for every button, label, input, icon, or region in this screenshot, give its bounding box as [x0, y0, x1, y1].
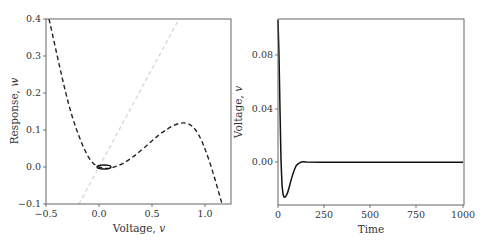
right-ytick-label: 0.08: [252, 49, 273, 60]
left-ytick-label: 0.0: [26, 161, 41, 172]
left-xtick-label: 1.0: [197, 208, 212, 219]
figure: 0.4 0.3 0.2 0.1 0.0 −0.1 −0.5 0.0 0.5 1.…: [0, 0, 485, 245]
right-ytick-label: 0.04: [252, 103, 273, 114]
right-y-axis-label: Voltage, v: [232, 86, 244, 139]
voltage-trace: [278, 20, 463, 197]
left-ytick-label: 0.2: [26, 87, 41, 98]
right-xtick-label: 750: [407, 209, 425, 220]
left-ytick-label: 0.4: [26, 13, 41, 24]
v-nullcline-curve: [49, 19, 222, 204]
w-nullcline-line: [79, 19, 179, 204]
time-series-plot: 0.08 0.04 0.00 0 250 500 750 1000 Time V…: [232, 19, 475, 235]
right-xtick-label: 0: [275, 209, 281, 220]
left-x-axis-label: Voltage, v: [112, 222, 165, 234]
right-x-axis-label: Time: [358, 223, 385, 235]
left-y-axis-label: Response, w: [8, 78, 20, 145]
right-xtick-label: 1000: [451, 209, 475, 220]
left-ytick-label: 0.3: [26, 50, 41, 61]
left-xtick-label: −0.5: [34, 208, 57, 219]
phase-plane-plot: 0.4 0.3 0.2 0.1 0.0 −0.1 −0.5 0.0 0.5 1.…: [8, 13, 231, 234]
right-ytick-label: 0.00: [252, 156, 273, 167]
right-xtick-label: 500: [361, 209, 379, 220]
right-xtick-label: 250: [315, 209, 333, 220]
left-ytick-label: 0.1: [26, 124, 41, 135]
left-axes-frame: [46, 19, 231, 204]
left-xtick-label: 0.5: [144, 208, 159, 219]
right-axes-frame: [278, 19, 464, 205]
right-y-ticks: [275, 55, 278, 162]
left-xtick-label: 0.0: [91, 208, 106, 219]
